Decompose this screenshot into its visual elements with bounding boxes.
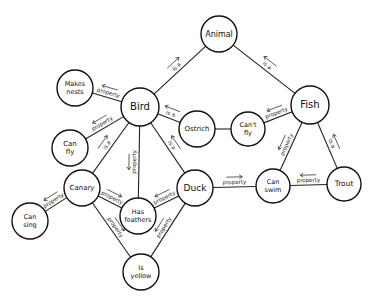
node-label: Bird [130, 101, 150, 112]
node-label: Can [24, 213, 37, 221]
edge-bird-to-makes-nests: property [92, 84, 121, 101]
node-label: Duck [184, 183, 208, 193]
node-can-fly: Canfly [52, 130, 88, 166]
node-label: Is [138, 264, 144, 272]
node-label: Makes [65, 80, 86, 88]
node-makes-nests: Makesnests [57, 70, 93, 106]
node-label: sing [23, 221, 36, 229]
node-duck: Duck [177, 170, 213, 206]
node-label: Has [132, 208, 145, 216]
node-canary: Canary [64, 170, 100, 206]
node-bird: Bird [121, 88, 159, 126]
edge-label: is a [165, 109, 176, 118]
edge-trout-to-can-swim: property [290, 173, 327, 185]
node-label: yellow [131, 272, 152, 280]
node-has-feathers: Hasfeathers [120, 198, 156, 234]
node-label: Trout [334, 179, 354, 188]
edge-bird-to-animal: is a [154, 46, 206, 94]
edge-line [213, 186, 256, 187]
node-can-sing: Cansing [12, 203, 48, 239]
edge-line [138, 126, 139, 198]
node-label: feathers [125, 216, 153, 224]
semantic-network-diagram: is ais apropertypropertyis apropertyis a… [0, 0, 375, 301]
edge-label: property [297, 177, 321, 185]
edge-duck-to-can-swim: property [213, 175, 256, 188]
diagram-svg: is ais apropertypropertyis apropertyis a… [0, 0, 375, 301]
node-animal: Animal [201, 16, 237, 52]
node-label: fly [244, 129, 252, 137]
node-label: Can't [240, 121, 257, 129]
edge-canary-to-bird: is a [92, 122, 128, 173]
node-is-yellow: Isyellow [123, 254, 159, 290]
node-ostrich: Ostrich [179, 111, 215, 147]
edge-line [233, 45, 295, 93]
node-cant-fly: Can'tfly [231, 112, 265, 146]
node-label: nests [66, 88, 84, 96]
edge-canary-to-can-sing: property [42, 191, 67, 211]
edge-fish-to-can-swim: property [278, 122, 302, 170]
node-label: Can [63, 140, 77, 148]
node-label: Can [267, 178, 280, 186]
node-fish: Fish [291, 86, 329, 124]
node-label: fly [66, 148, 75, 156]
node-label: Ostrich [184, 125, 209, 133]
nodes-layer: AnimalBirdFishMakesnestsCanflyOstrichCan… [12, 16, 361, 290]
edge-bird-to-has-feathers: property [127, 126, 140, 198]
edge-fish-to-animal: is a [233, 45, 295, 93]
node-label: Fish [300, 99, 319, 110]
edge-label: property [131, 149, 138, 173]
edge-line [290, 184, 327, 185]
edge-canary-to-has-feathers: property [98, 189, 125, 207]
node-label: Animal [205, 30, 233, 39]
edge-trout-to-fish: is a [318, 122, 340, 168]
node-can-swim: Canswim [256, 169, 290, 203]
edge-bird-to-can-fly: property [86, 115, 124, 139]
edge-label: property [223, 179, 247, 187]
node-label: swim [265, 186, 282, 194]
edge-fish-to-cant-fly: property [264, 105, 292, 123]
edge-line [154, 46, 206, 94]
node-label: Canary [70, 184, 95, 192]
edge-duck-to-has-feathers: property [152, 189, 178, 208]
edge-ostrich-to-bird: is a [158, 105, 180, 122]
node-trout: Trout [327, 167, 361, 201]
